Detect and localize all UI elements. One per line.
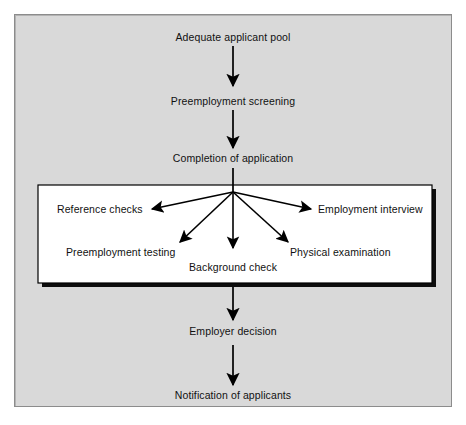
node-employment-interview: Employment interview (318, 203, 423, 216)
node-completion-of-application: Completion of application (173, 152, 293, 165)
node-reference-checks: Reference checks (57, 203, 143, 216)
flowchart-figure: Adequate applicant pool Preemployment sc… (0, 0, 466, 425)
node-employer-decision: Employer decision (189, 325, 277, 338)
node-physical-examination: Physical examination (290, 246, 391, 259)
node-preemployment-screening: Preemployment screening (171, 95, 295, 108)
node-background-check: Background check (189, 261, 277, 274)
node-notification-of-applicants: Notification of applicants (175, 389, 291, 402)
node-preemployment-testing: Preemployment testing (66, 246, 175, 259)
node-adequate-applicant-pool: Adequate applicant pool (176, 31, 291, 44)
